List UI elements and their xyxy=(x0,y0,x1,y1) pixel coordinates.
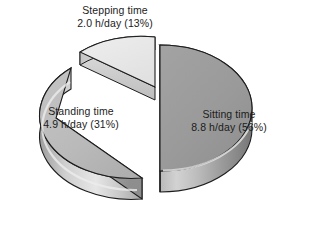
pie-slice-stepping[interactable] xyxy=(80,36,155,100)
pie-slice-sitting[interactable] xyxy=(160,45,252,192)
pie-slice-standing[interactable] xyxy=(40,68,142,199)
pie-chart-canvas xyxy=(0,0,314,226)
pie-chart-figure: Stepping time 2.0 h/day (13%) Standing t… xyxy=(0,0,314,226)
